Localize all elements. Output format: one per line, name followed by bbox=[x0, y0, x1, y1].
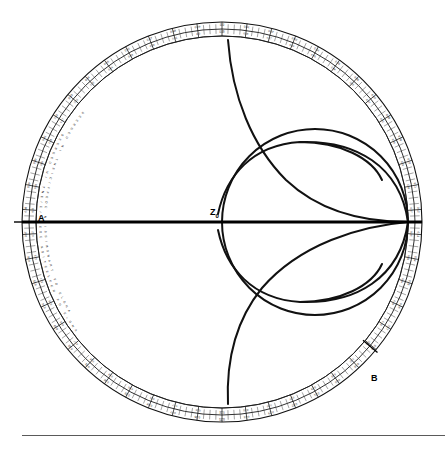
rim-label-toward-generator: 0.01 bbox=[244, 24, 250, 29]
rim-tick-minor bbox=[40, 297, 49, 301]
rim-word-char: C bbox=[39, 236, 43, 239]
rim-tick-minor bbox=[323, 381, 328, 389]
rim-word-char: E bbox=[50, 156, 55, 159]
rim-label-toward-load: 0.01 bbox=[172, 35, 178, 40]
rim-label-toward-load: 0.48 bbox=[243, 31, 249, 36]
footer-divider-rule bbox=[22, 435, 445, 436]
rim-label-toward-generator: 0.22 bbox=[291, 402, 298, 408]
rim-label-toward-generator: 0.35 bbox=[32, 279, 38, 286]
rim-word-char: F bbox=[56, 298, 60, 302]
rim-label-toward-generator: 0.40 bbox=[32, 158, 38, 165]
rim-word-char: L bbox=[46, 275, 50, 278]
rim-label-toward-generator: 0.12 bbox=[416, 207, 420, 213]
rim-label-toward-load: 0.38 bbox=[406, 184, 411, 190]
rim-tick-minor bbox=[318, 384, 323, 392]
rim-tick-minor bbox=[384, 121, 392, 126]
rim-tick-minor bbox=[121, 52, 126, 60]
rim-word-char: N bbox=[40, 246, 44, 249]
rim-tick-minor bbox=[210, 410, 211, 420]
rim-tick-minor bbox=[374, 106, 382, 112]
rim-label-toward-generator: 0.25 bbox=[219, 417, 225, 421]
rim-tick-minor bbox=[337, 371, 343, 379]
rim-label-toward-generator: 0.0 bbox=[220, 23, 224, 27]
rim-word-char: E bbox=[45, 196, 49, 199]
rim-word-char: E bbox=[38, 226, 42, 228]
rim-word-char: T bbox=[54, 158, 58, 161]
rim-label-toward-load: 0.34 bbox=[400, 278, 406, 285]
rim-word-char: I bbox=[50, 173, 54, 175]
rim-label-toward-generator: 0.13 bbox=[416, 231, 420, 237]
rim-word-char: C bbox=[44, 206, 48, 209]
rim-label-toward-load: 0.11 bbox=[30, 207, 34, 213]
rim-word-char: E bbox=[75, 119, 80, 123]
rim-tick-minor bbox=[374, 333, 382, 339]
rim-word-char: O bbox=[44, 201, 48, 204]
rim-label-toward-load: 0.12 bbox=[30, 231, 34, 237]
rim-label-toward-generator: 0.14 bbox=[413, 256, 418, 263]
rim-word-char: E bbox=[58, 138, 63, 142]
rim-word-char: M bbox=[45, 245, 49, 249]
rim-tick-minor bbox=[111, 58, 116, 66]
rim-label-toward-generator: 0.23 bbox=[267, 410, 274, 415]
smith-chart-canvas: 0.00.010.020.030.040.050.060.070.080.090… bbox=[0, 0, 445, 452]
rim-tick-minor bbox=[387, 127, 395, 132]
rim-word-char: R bbox=[51, 289, 56, 293]
rim-word-char: E bbox=[50, 284, 55, 287]
rim-word-char: S bbox=[45, 250, 49, 253]
rim-tick-minor bbox=[342, 367, 348, 374]
rim-tick-minor bbox=[40, 143, 49, 147]
rim-tick-minor bbox=[143, 395, 147, 404]
rim-word-char: E bbox=[58, 291, 63, 295]
rim-word-char: N bbox=[71, 324, 76, 328]
rim-tick-minor bbox=[210, 25, 211, 35]
rim-label-toward-load: 0.47 bbox=[266, 36, 272, 41]
rim-tick-minor bbox=[387, 313, 395, 318]
rim-word-char: I bbox=[44, 176, 48, 178]
rim-word-char: G bbox=[68, 320, 73, 325]
rim-word-char: A bbox=[74, 328, 78, 332]
rim-tick-minor bbox=[390, 307, 399, 311]
rim-word-char: E bbox=[51, 167, 55, 170]
rim-label-toward-load: 0.39 bbox=[400, 160, 406, 167]
rim-tick-minor bbox=[395, 297, 404, 301]
rim-tick-minor bbox=[395, 143, 404, 147]
rim-tick-minor bbox=[234, 410, 235, 420]
rim-label-toward-load: 0.35 bbox=[406, 255, 411, 261]
rim-tick-minor bbox=[378, 328, 386, 333]
rim-word-char: R bbox=[53, 147, 58, 151]
rim-tick-minor bbox=[323, 55, 328, 63]
rim-label-toward-generator: 0.26 bbox=[194, 415, 200, 420]
rim-word-char: I bbox=[42, 256, 46, 258]
rim-word-char: S bbox=[60, 133, 65, 137]
rim-word-char: R bbox=[72, 123, 77, 128]
rim-label-toward-load: 0.10 bbox=[33, 183, 38, 189]
rim-tick-minor bbox=[96, 367, 102, 374]
rim-tick-minor bbox=[101, 66, 107, 74]
rim-label-toward-generator: 0.47 bbox=[146, 36, 153, 42]
rim-label-toward-load: 0.09 bbox=[39, 160, 45, 167]
rim-label-toward-load: 0.37 bbox=[409, 207, 413, 213]
rim-tick-minor bbox=[302, 392, 306, 401]
rim-word-char: S bbox=[81, 111, 85, 115]
rim-tick-minor bbox=[297, 40, 301, 49]
rim-word-char: F bbox=[46, 191, 50, 194]
center-impedance-label: Z0 bbox=[210, 207, 220, 219]
rim-label-toward-generator: 0.49 bbox=[194, 24, 200, 29]
rim-word-char: C bbox=[44, 265, 49, 269]
rim-word-char: F bbox=[48, 280, 52, 283]
rim-tick-minor bbox=[49, 313, 57, 318]
rim-word-char: I bbox=[47, 182, 51, 184]
rim-label-toward-load: 0.23 bbox=[195, 408, 201, 413]
rim-label-toward-generator: 0.28 bbox=[146, 402, 153, 408]
marker-group: A B Z0 bbox=[14, 207, 378, 383]
rim-word-char: I bbox=[39, 201, 43, 202]
rim-tick-minor bbox=[101, 371, 107, 379]
rim-label-toward-generator: 0.11 bbox=[413, 182, 418, 188]
rim-tick-minor bbox=[328, 378, 333, 386]
rim-word-char: E bbox=[78, 115, 82, 119]
rim-word-char: L bbox=[65, 316, 69, 320]
rim-label-toward-load: 0.25 bbox=[242, 408, 248, 413]
rim-label-toward-load: 0.0 bbox=[196, 31, 201, 35]
rim-word-char: I bbox=[43, 226, 47, 227]
rim-word-char: D bbox=[48, 161, 53, 165]
